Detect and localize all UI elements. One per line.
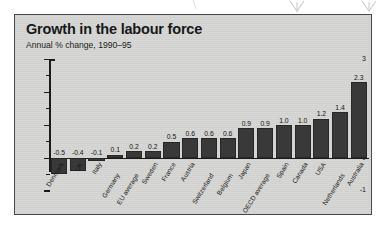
y-tick-minor [46,141,50,142]
bar-slot: 0.2 [126,59,142,158]
y-tick [44,190,50,191]
category-label: France [160,161,177,182]
bar-slot: 0.1 [107,59,123,158]
bar-value-label: 1.4 [328,104,352,111]
bar-slot: 1.0 [276,59,292,158]
category-slot: EU average [126,161,142,215]
y-tick [44,92,50,93]
category-slot: Denmark [51,161,67,215]
bar-slot: 0.6 [182,59,198,158]
bar[interactable] [163,142,179,158]
bar-slot: 0.9 [257,59,273,158]
category-slot: Netherlands [332,161,348,215]
bar[interactable] [145,151,161,158]
category-label: UK [73,161,84,173]
bar[interactable] [107,155,123,158]
bar-slot: -0.4 [70,59,86,158]
category-slot: Switzerland [201,161,217,215]
bar[interactable] [238,128,254,158]
bar[interactable] [201,138,217,158]
bar-slot: 1.4 [332,59,348,158]
bar[interactable] [332,112,348,158]
category-label: Sweden [140,161,159,185]
bar[interactable] [276,125,292,158]
y-tick [44,158,50,159]
y-tick [44,59,50,60]
bar-slot: -0.5 [51,59,67,158]
bar[interactable] [220,138,236,158]
category-slot: Italy [88,161,104,215]
bar[interactable] [126,151,142,158]
category-label: USA [314,161,327,176]
category-label: Japan [237,161,253,180]
bar-series: -0.5-0.4-0.10.10.20.20.50.60.60.60.90.91… [51,59,367,158]
category-label: Canada [290,161,308,185]
category-slot: Belgium [220,161,236,215]
category-slot: OECD average [257,161,273,215]
bar-slot: 2.3 [351,59,367,158]
bar-value-label: 1.0 [291,117,315,124]
bar-slot: 0.2 [145,59,161,158]
category-slot: Australia [351,161,367,215]
bar-value-label: 0.6 [216,130,240,137]
y-tick-minor [46,75,50,76]
bar[interactable] [313,119,329,158]
category-label: Italy [90,161,102,175]
category-label: Spain [275,161,290,179]
category-slot: Canada [295,161,311,215]
category-slot: Sweden [145,161,161,215]
category-label: Belgium [215,172,234,196]
bar[interactable] [351,82,367,158]
bar-value-label: 2.3 [347,74,371,81]
bar-slot: 0.5 [163,59,179,158]
y-tick-minor [46,108,50,109]
chart-title: Growth in the labour force [26,21,202,37]
bar-slot: 0.6 [220,59,236,158]
category-slot: France [163,161,179,215]
bar-slot: 1.2 [313,59,329,158]
category-slot: Austria [182,161,198,215]
category-label: Austria [179,161,196,182]
bar-value-label: 1.2 [309,110,333,117]
bar-value-label: 0.2 [141,143,165,150]
bar[interactable] [257,128,273,158]
category-slot: UK [70,161,86,215]
bar-slot: 1.0 [295,59,311,158]
bar-slot: 0.6 [201,59,217,158]
bar[interactable] [182,138,198,158]
y-tick [44,125,50,126]
bar[interactable] [295,125,311,158]
category-axis: DenmarkUKItalyGermanyEU averageSwedenFra… [51,161,367,215]
bar-slot: 0.9 [238,59,254,158]
category-slot: USA [313,161,329,215]
category-slot: Germany [107,161,123,215]
bar-slot: -0.1 [88,59,104,158]
category-slot: Spain [276,161,292,215]
chart-panel: Growth in the labour force Annual % chan… [14,14,372,215]
chart-subtitle: Annual % change, 1990–95 [26,40,132,50]
